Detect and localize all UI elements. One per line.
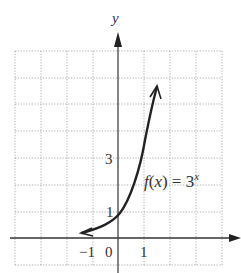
- function-label: f(x) = 3x: [144, 170, 199, 191]
- x-tick-neg1: −1: [79, 244, 95, 260]
- x-axis-arrow-icon: [229, 234, 241, 242]
- y-axis-label: y: [110, 10, 119, 26]
- axes: [10, 32, 241, 273]
- y-tick-3: 3: [105, 151, 113, 167]
- x-tick-1: 1: [140, 244, 148, 260]
- y-tick-1: 1: [106, 204, 114, 220]
- y-axis-arrow-icon: [114, 32, 122, 47]
- x-tick-0: 0: [105, 244, 113, 260]
- exponential-graph: y −1 0 1 1 3 f(x) = 3x: [0, 0, 241, 273]
